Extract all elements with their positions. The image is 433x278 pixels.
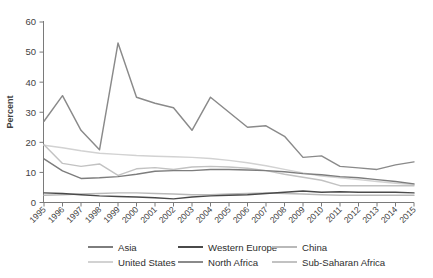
series-paths (44, 43, 414, 199)
x-tick-label: 2003 (175, 204, 196, 225)
chart-container: Percent 0102030405060 199519961997199819… (0, 0, 433, 278)
x-tick-label: 2013 (360, 204, 381, 225)
y-tick-label: 60 (25, 16, 36, 27)
y-tick-label: 50 (25, 46, 36, 57)
x-tick-label: 2007 (249, 204, 270, 225)
y-axis-label-text: Percent (5, 95, 15, 128)
legend-label-china: China (302, 242, 328, 253)
legend-label-north-africa: North Africa (208, 257, 259, 268)
y-axis-label: Percent (5, 95, 15, 128)
legend-label-asia: Asia (118, 242, 137, 253)
line-chart-svg: Percent 0102030405060 199519961997199819… (0, 0, 433, 278)
legend-label-western-europe: Western Europe (208, 242, 277, 253)
x-tick-label: 2002 (157, 204, 178, 225)
x-tick-label: 1998 (83, 204, 104, 225)
y-axis-ticks: 0102030405060 (25, 16, 43, 208)
x-tick-label: 2004 (194, 204, 215, 225)
x-tick-label: 2015 (397, 204, 418, 225)
y-tick-label: 10 (25, 167, 36, 178)
x-tick-label: 2010 (305, 204, 326, 225)
legend-label-united-states: United States (118, 257, 176, 268)
x-tick-label: 2012 (342, 204, 363, 225)
chart-legend: AsiaWestern EuropeChinaUnited StatesNort… (88, 242, 386, 268)
series-line-north-africa (44, 43, 414, 169)
x-tick-label: 1996 (46, 204, 67, 225)
x-tick-label: 2009 (286, 204, 307, 225)
legend-label-sub-saharan-africa: Sub-Saharan Africa (302, 257, 386, 268)
x-tick-label: 2005 (212, 204, 233, 225)
series-line-united-states (44, 145, 414, 184)
x-tick-label: 2000 (120, 204, 141, 225)
x-axis-ticks: 1995199619971998199920002001200220032004… (27, 203, 418, 225)
x-tick-label: 1999 (101, 204, 122, 225)
x-tick-label: 2014 (379, 204, 400, 225)
x-tick-label: 1997 (64, 204, 85, 225)
y-tick-label: 40 (25, 77, 36, 88)
x-tick-label: 2011 (324, 204, 344, 224)
y-tick-label: 30 (25, 107, 36, 118)
y-tick-label: 0 (31, 197, 36, 208)
x-tick-label: 2001 (138, 204, 159, 225)
x-tick-label: 2008 (268, 204, 289, 225)
x-tick-label: 2006 (231, 204, 252, 225)
y-tick-label: 20 (25, 137, 36, 148)
